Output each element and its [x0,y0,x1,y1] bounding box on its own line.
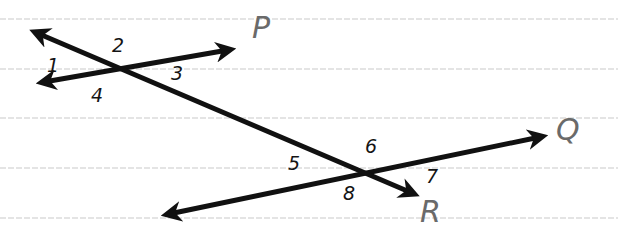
angle-label-5: 5 [288,152,300,174]
ruled-lines [0,19,618,218]
angle-label-1: 1 [47,54,59,76]
line-label-p: P [252,10,271,45]
angle-label-2: 2 [112,34,124,56]
transversal-r [37,33,412,193]
line-label-q: Q [556,112,580,147]
geometry-lines [37,33,540,214]
line-labels: P Q R [252,10,580,229]
angle-label-8: 8 [343,182,355,204]
diagram-canvas: P Q R 1 2 3 4 5 6 7 8 [0,0,618,242]
angle-label-7: 7 [426,165,438,187]
angle-label-6: 6 [365,135,377,157]
angle-label-4: 4 [91,84,103,106]
angle-label-3: 3 [171,62,183,84]
line-label-r: R [420,194,441,229]
